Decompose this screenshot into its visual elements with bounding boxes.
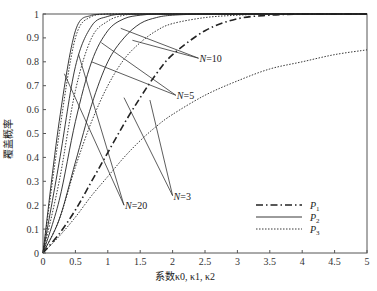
y-tick-label: 0.1: [27, 224, 40, 235]
x-tick-label: 4.5: [328, 256, 341, 267]
x-tick-label: 5: [365, 256, 370, 267]
y-tick-label: 1: [34, 9, 39, 20]
x-tick-label: 4: [300, 256, 305, 267]
x-tick-label: 0.5: [69, 256, 82, 267]
annotation-value: =10: [206, 53, 222, 64]
annotation-value: =3: [180, 191, 191, 202]
x-tick-label: 0: [41, 256, 46, 267]
x-tick-label: 1.5: [134, 256, 147, 267]
annotation-leader-line: [101, 43, 176, 96]
y-tick-label: 0.6: [27, 104, 40, 115]
annotation-leader-line: [124, 98, 173, 196]
annotation-label: N=5: [176, 90, 194, 101]
y-tick-label: 0.5: [27, 128, 40, 139]
x-tick-label: 3.5: [264, 256, 277, 267]
x-axis-title: 系数κ0, κ1, κ2: [155, 270, 215, 282]
x-tick-label: 2.5: [199, 256, 212, 267]
y-tick-label: 0.4: [27, 152, 40, 163]
legend-label-var: P: [309, 212, 316, 223]
annotation-value: =5: [184, 90, 195, 101]
x-tick-label: 3: [235, 256, 240, 267]
legend-label-sub: 2: [316, 217, 320, 225]
y-tick-label: 0.3: [27, 176, 40, 187]
x-tick-label: 1: [105, 256, 110, 267]
annotation-leader-line: [150, 100, 173, 196]
annotation-label: N=10: [199, 53, 222, 64]
legend-label-sub: 3: [316, 229, 320, 237]
y-tick-label: 0.8: [27, 56, 40, 67]
legend-label: P3: [309, 224, 320, 237]
y-tick-label: 0.7: [27, 80, 40, 91]
annotation-leader-line: [132, 40, 198, 58]
annotation-label: N=20: [124, 200, 147, 211]
legend-label-var: P: [309, 224, 316, 235]
annotation-leader-line: [121, 28, 199, 58]
annotation-label: N=3: [173, 191, 191, 202]
legend-label-sub: 1: [316, 205, 320, 213]
chart: N=10N=5N=3N=20 00.511.522.533.544.5500.1…: [0, 0, 377, 291]
annotations: N=10N=5N=3N=20: [64, 28, 221, 211]
annotation-leader-line: [92, 62, 176, 95]
x-tick-label: 2: [170, 256, 175, 267]
y-tick-label: 0.2: [27, 200, 40, 211]
legend-label-var: P: [309, 200, 316, 211]
legend: P1P2P3: [256, 200, 320, 237]
y-tick-label: 0: [34, 248, 39, 259]
annotation-value: =20: [132, 200, 148, 211]
y-tick-label: 0.9: [27, 32, 40, 43]
y-axis-title: 覆盖概率: [2, 119, 14, 159]
